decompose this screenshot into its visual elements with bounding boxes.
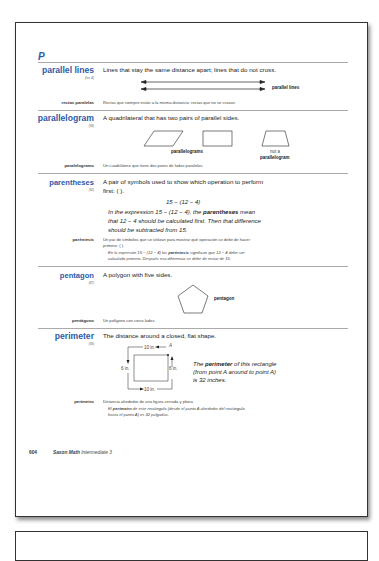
spanish-term: perímetro (16, 399, 94, 404)
dimension-top: 10 in. (144, 345, 155, 350)
spanish-example: El perímetro de este rectángulo (desde e… (108, 406, 308, 412)
next-page (15, 531, 368, 561)
point-label: A (169, 343, 172, 348)
spanish-example: hasta el punto A) es 32 pulgadas. (108, 412, 298, 418)
example: The perimeter of this rectangle (193, 360, 379, 368)
example: (from point A around to point A) (193, 368, 379, 376)
dimension-right: 6 in. (169, 366, 178, 371)
dimension-bottom: 10 in. (144, 387, 155, 392)
example: is 32 inches. (193, 376, 379, 384)
spanish-definition: Distancia alrededor de una figura cerrad… (103, 399, 194, 405)
page-number: 604 (29, 450, 37, 455)
dimension-left: 6 in. (121, 366, 130, 371)
perimeter-figure (16, 23, 369, 518)
glossary-page: P parallel lines (Inv. 4) Lines that sta… (15, 22, 368, 517)
book-title: Saxon Math Intermediate 3 (53, 450, 112, 455)
